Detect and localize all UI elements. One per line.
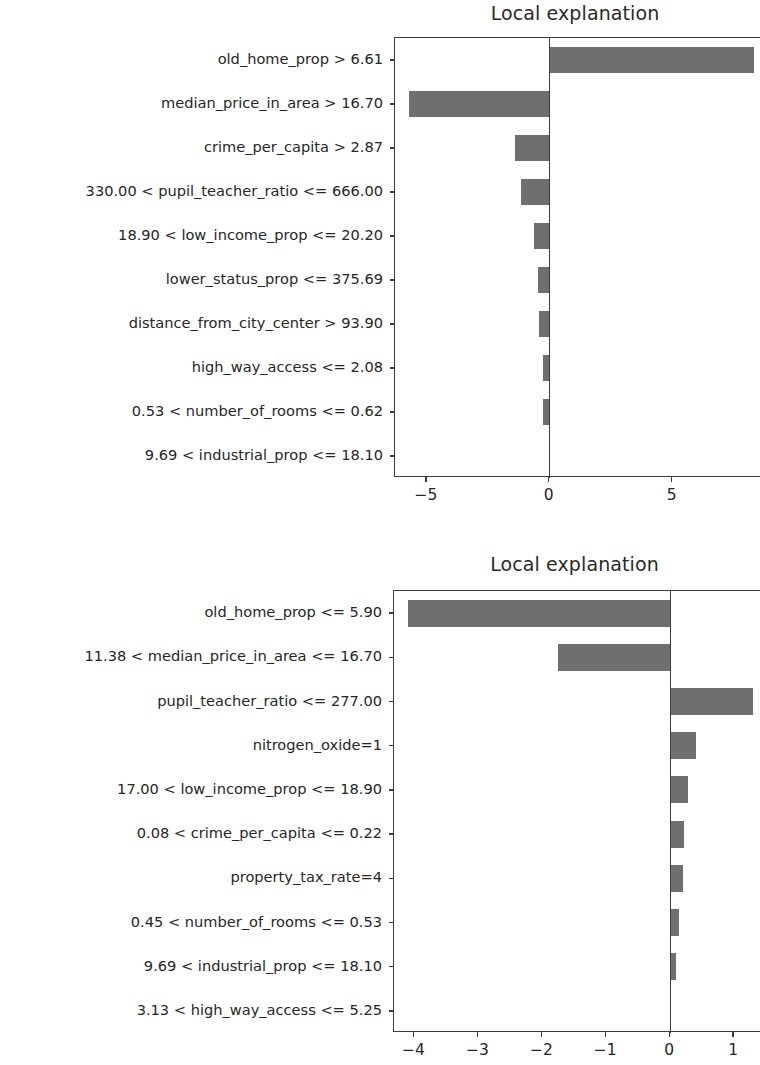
- x-axis-tick: [605, 1032, 606, 1037]
- x-axis-tick: [413, 1032, 414, 1037]
- y-axis-tick: [389, 745, 394, 746]
- y-axis-tick-label: 0.08 < crime_per_capita <= 0.22: [137, 826, 382, 841]
- y-axis-tick-label: distance_from_city_center > 93.90: [129, 316, 383, 331]
- x-axis-tick: [477, 1032, 478, 1037]
- y-axis-tick-label: crime_per_capita > 2.87: [204, 140, 383, 155]
- y-axis-tick: [390, 455, 395, 456]
- y-axis-tick: [390, 279, 395, 280]
- y-axis-tick-label: 18.90 < low_income_prop <= 20.20: [118, 228, 383, 243]
- x-axis-tick-label: 0: [544, 486, 554, 504]
- x-axis-tick-label: 1: [728, 1041, 738, 1059]
- figure-local-explanation-2: Local explanation old_home_prop <= 5.901…: [0, 530, 756, 1065]
- y-axis-tick: [390, 235, 395, 236]
- plot-area: [394, 37, 760, 477]
- y-axis-tick: [390, 59, 395, 60]
- y-axis-tick-label: median_price_in_area > 16.70: [161, 96, 383, 111]
- bar: [521, 179, 550, 205]
- bar: [670, 732, 696, 759]
- bar: [670, 865, 683, 892]
- bar: [538, 267, 550, 293]
- x-axis: −4−3−2−101: [393, 1032, 760, 1065]
- bar: [539, 311, 550, 337]
- y-axis-labels: old_home_prop <= 5.9011.38 < median_pric…: [0, 590, 382, 1032]
- y-axis-tick-label: lower_status_prop <= 375.69: [166, 272, 383, 287]
- y-axis-tick: [389, 1010, 394, 1011]
- y-axis-labels: old_home_prop > 6.61median_price_in_area…: [0, 37, 383, 477]
- x-axis-tick: [548, 477, 549, 482]
- x-axis-tick-label: −4: [402, 1041, 425, 1059]
- y-axis-tick-label: 9.69 < industrial_prop <= 18.10: [144, 958, 382, 973]
- y-axis-tick: [390, 323, 395, 324]
- y-axis-tick: [389, 922, 394, 923]
- bar: [670, 953, 676, 980]
- y-axis-tick: [389, 878, 394, 879]
- bar: [409, 91, 550, 117]
- x-axis-tick: [541, 1032, 542, 1037]
- y-axis-tick: [389, 789, 394, 790]
- y-axis-tick-label: property_tax_rate=4: [230, 870, 382, 885]
- bar: [670, 909, 679, 936]
- bar: [515, 135, 549, 161]
- y-axis-tick-label: nitrogen_oxide=1: [253, 737, 382, 752]
- x-axis-tick-label: −2: [530, 1041, 553, 1059]
- y-axis-tick: [389, 966, 394, 967]
- bar: [408, 600, 670, 627]
- bar: [550, 47, 754, 73]
- x-axis-tick: [425, 477, 426, 482]
- x-axis-tick: [671, 477, 672, 482]
- y-axis-tick: [389, 612, 394, 613]
- y-axis-tick: [390, 411, 395, 412]
- y-axis-tick-label: old_home_prop <= 5.90: [204, 605, 382, 620]
- y-axis-tick: [389, 701, 394, 702]
- bars-layer: [394, 591, 760, 1031]
- y-axis-tick-label: 17.00 < low_income_prop <= 18.90: [117, 782, 382, 797]
- bar: [670, 688, 753, 715]
- y-axis-tick-label: old_home_prop > 6.61: [218, 52, 383, 67]
- chart-title: Local explanation: [394, 2, 756, 24]
- zero-reference-line: [549, 38, 550, 478]
- y-axis-tick: [390, 147, 395, 148]
- bar: [670, 776, 688, 803]
- bars-layer: [395, 38, 760, 476]
- y-axis-tick: [389, 657, 394, 658]
- y-axis-tick-label: 0.53 < number_of_rooms <= 0.62: [132, 404, 383, 419]
- x-axis-tick-label: 5: [667, 486, 677, 504]
- x-axis: −505: [394, 477, 760, 522]
- zero-reference-line: [670, 591, 671, 1033]
- x-axis-tick-label: −1: [594, 1041, 617, 1059]
- x-axis-tick: [732, 1032, 733, 1037]
- x-axis-tick: [669, 1032, 670, 1037]
- chart-title: Local explanation: [393, 553, 756, 575]
- y-axis-tick-label: 0.45 < number_of_rooms <= 0.53: [131, 914, 382, 929]
- x-axis-tick-label: −3: [466, 1041, 489, 1059]
- y-axis-tick: [389, 833, 394, 834]
- y-axis-tick: [390, 103, 395, 104]
- y-axis-tick-label: pupil_teacher_ratio <= 277.00: [157, 693, 382, 708]
- y-axis-tick-label: 11.38 < median_price_in_area <= 16.70: [84, 649, 382, 664]
- x-axis-tick-label: −5: [414, 486, 437, 504]
- plot-area: [393, 590, 760, 1032]
- bar: [558, 644, 670, 671]
- y-axis-tick-label: 330.00 < pupil_teacher_ratio <= 666.00: [86, 184, 383, 199]
- y-axis-tick: [390, 191, 395, 192]
- y-axis-tick-label: 9.69 < industrial_prop <= 18.10: [145, 448, 383, 463]
- figure-local-explanation-1: Local explanation old_home_prop > 6.61me…: [0, 0, 756, 530]
- bar: [534, 223, 550, 249]
- bar: [670, 821, 684, 848]
- y-axis-tick-label: high_way_access <= 2.08: [192, 360, 383, 375]
- y-axis-tick-label: 3.13 < high_way_access <= 5.25: [137, 1003, 382, 1018]
- y-axis-tick: [390, 367, 395, 368]
- x-axis-tick-label: 0: [664, 1041, 674, 1059]
